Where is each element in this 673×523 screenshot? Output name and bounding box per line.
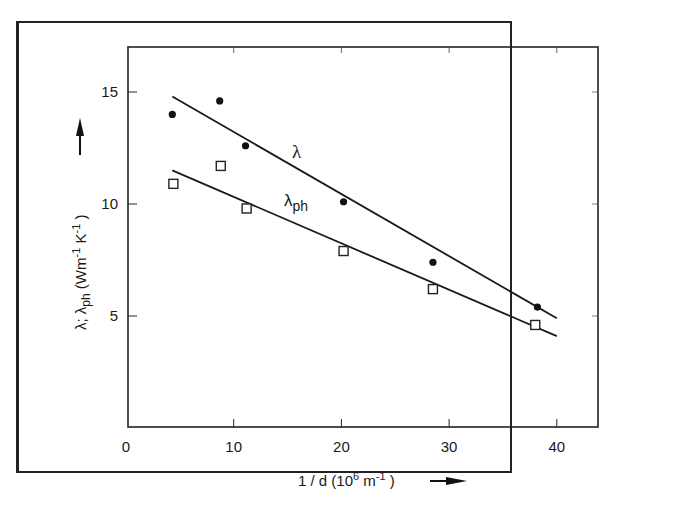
x-tick-label: 20 — [333, 438, 350, 455]
lambda-ph-fit-line — [172, 170, 556, 336]
lambda-series-label: λ — [292, 141, 302, 162]
lambda-data-point — [340, 198, 347, 205]
y-tick-label: 15 — [101, 83, 118, 100]
chart-canvas: 01020304051015λλph1 / d (106 m-1 )λ; λph… — [0, 0, 673, 523]
lambda-ph-data-point — [428, 285, 437, 294]
x-axis-arrow-icon — [446, 477, 467, 485]
plot-frame — [128, 47, 598, 427]
lambda-ph-data-point — [216, 161, 225, 170]
lambda-fit-line — [172, 96, 556, 318]
y-tick-label: 10 — [101, 195, 118, 212]
x-tick-label: 30 — [441, 438, 458, 455]
lambda-ph-data-point — [169, 179, 178, 188]
x-tick-label: 0 — [122, 438, 130, 455]
figure-border — [17, 22, 511, 472]
lambda-data-point — [242, 142, 249, 149]
x-tick-label: 10 — [225, 438, 242, 455]
x-axis-label: 1 / d (106 m-1 ) — [298, 470, 395, 489]
lambda-data-point — [216, 97, 223, 104]
x-tick-label: 40 — [548, 438, 565, 455]
y-axis-label: λ; λph (Wm-1 K-1 ) — [70, 215, 93, 330]
y-axis-arrow-icon — [76, 118, 84, 136]
lambda-data-point — [534, 303, 541, 310]
lambda-data-point — [429, 259, 436, 266]
lambda-data-point — [169, 111, 176, 118]
lambda-ph-data-point — [531, 320, 540, 329]
lambda-ph-data-point — [242, 204, 251, 213]
lambda-ph-data-point — [339, 247, 348, 256]
lambda-ph-series-label: λph — [284, 191, 308, 214]
y-tick-label: 5 — [110, 307, 118, 324]
